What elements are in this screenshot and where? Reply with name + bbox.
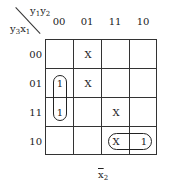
cell-11-11: X <box>102 98 130 127</box>
bottom-var-x2-sub: 2 <box>104 174 108 182</box>
cell-00-00 <box>46 40 74 69</box>
group-loop-horizontal <box>108 133 152 150</box>
row-variable-label: y3x1 <box>10 24 30 37</box>
col-header-01: 01 <box>73 16 101 27</box>
col-header-10: 10 <box>129 16 157 27</box>
col-header-11: 11 <box>101 16 129 27</box>
cell-01-01: X <box>74 69 102 98</box>
cell-11-01 <box>74 98 102 127</box>
col-header-00: 00 <box>45 16 73 27</box>
row-header-11: 11 <box>24 107 42 118</box>
row-header-00: 00 <box>24 49 42 60</box>
cell-10-00 <box>46 127 74 156</box>
row-header-01: 01 <box>24 78 42 89</box>
cell-11-10 <box>130 98 158 127</box>
cell-00-01: X <box>74 40 102 69</box>
bottom-variable-label: x2 <box>98 170 108 183</box>
cell-00-10 <box>130 40 158 69</box>
cell-01-11 <box>102 69 130 98</box>
kmap-grid: X 1 X 1 X X 1 <box>45 39 157 155</box>
row-header-10: 10 <box>24 136 42 147</box>
cell-01-10 <box>130 69 158 98</box>
cell-10-01 <box>74 127 102 156</box>
group-loop-vertical <box>53 75 67 121</box>
cell-00-11 <box>102 40 130 69</box>
row-var-x1-sub: 1 <box>26 28 30 36</box>
